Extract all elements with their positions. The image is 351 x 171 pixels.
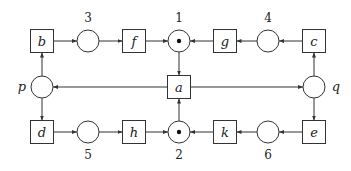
transition-f: f [123, 30, 146, 53]
transition-label: b [38, 34, 46, 49]
place-label: 4 [264, 11, 272, 25]
place-3 [77, 30, 99, 52]
token-icon [177, 39, 181, 43]
transition-label: k [221, 125, 229, 140]
petri-net-diagram: bfgcadhke 314pq526 [0, 0, 351, 171]
place-5 [77, 121, 99, 143]
place-label: p [18, 79, 27, 94]
transition-k: k [214, 121, 237, 144]
place-label: 3 [84, 11, 92, 25]
transition-a: a [168, 76, 191, 99]
place-label: 2 [175, 148, 183, 162]
place-label: 5 [84, 148, 92, 162]
place-4 [257, 30, 279, 52]
place-label: q [332, 79, 340, 94]
token-icon [177, 130, 181, 134]
transition-e: e [303, 121, 326, 144]
transition-label: d [38, 125, 46, 140]
transition-label: c [310, 34, 318, 49]
transition-g: g [214, 30, 237, 53]
transition-h: h [123, 121, 146, 144]
transition-label: e [310, 125, 318, 140]
place-q [303, 76, 325, 98]
transition-label: h [130, 125, 138, 140]
place-p [31, 76, 53, 98]
transition-c: c [303, 30, 326, 53]
place-6 [257, 121, 279, 143]
transition-d: d [31, 121, 54, 144]
transition-label: a [175, 80, 183, 95]
place-label: 6 [264, 148, 272, 162]
place-1 [168, 30, 190, 52]
transition-label: g [221, 34, 229, 49]
place-label: 1 [175, 11, 183, 25]
transition-b: b [31, 30, 54, 53]
place-2 [168, 121, 190, 143]
